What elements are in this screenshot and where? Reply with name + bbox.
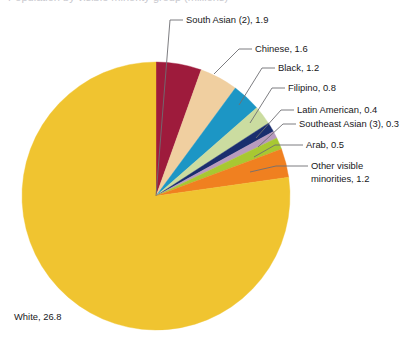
leader-line-chinese [214,49,252,74]
label-black: Black, 1.2 [278,62,319,73]
label-filipino: Filipino, 0.8 [288,82,336,93]
label-chinese: Chinese, 1.6 [255,43,308,54]
pie-slice-group [22,62,290,330]
label-other-visible-minorities-line1: Other visible [311,160,363,171]
label-arab: Arab, 0.5 [306,139,344,150]
pie-chart-svg: South Asian (2), 1.9 Chinese, 1.6 Black,… [0,0,420,353]
label-latin-american: Latin American, 0.4 [297,104,377,115]
label-other-visible-minorities-line2: minorities, 1.2 [311,173,369,184]
pie-chart-figure: Population by visible minority group (mi… [0,0,420,353]
label-white: White, 26.8 [14,311,61,322]
label-southeast-asian: Southeast Asian (3), 0.3 [299,118,399,129]
label-south-asian: South Asian (2), 1.9 [186,14,268,25]
